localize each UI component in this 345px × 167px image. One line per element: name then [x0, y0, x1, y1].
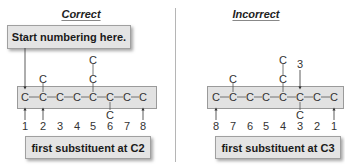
- bonds-and-arrows: [0, 0, 345, 167]
